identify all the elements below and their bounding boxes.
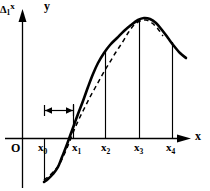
tick-label-x1-subscript: 1: [78, 147, 82, 156]
tick-label-x4-base: x: [166, 141, 172, 153]
tick-label-x0: x0: [38, 142, 47, 153]
tick-label-x3: x3: [134, 142, 143, 153]
x-axis-label: x: [195, 130, 201, 142]
tick-label-x3-base: x: [134, 141, 140, 153]
tick-label-x2-subscript: 2: [107, 147, 111, 156]
delta-dimension-bracket: [45, 105, 74, 116]
tick-label-x4: x4: [166, 142, 175, 153]
tick-label-x3-subscript: 3: [140, 147, 144, 156]
plot-canvas: [0, 0, 210, 191]
delta-variable: x: [10, 1, 15, 11]
tick-label-x2: x2: [101, 142, 110, 153]
tick-label-x4-subscript: 4: [172, 147, 176, 156]
ordinate-lines: [45, 19, 173, 183]
y-axis-label: y: [44, 0, 50, 12]
solid-function-curve: [44, 18, 186, 182]
tick-label-x0-subscript: 0: [44, 147, 48, 156]
y-axis-arrow-icon: [19, 9, 27, 22]
delta-arrow-left-icon: [45, 107, 52, 114]
tick-label-x1: x1: [72, 142, 81, 153]
x-axis-arrow-icon: [177, 135, 191, 143]
function-plot-figure: y x O x0 x1 x2 x3 x4 Δ1x: [0, 0, 210, 191]
tick-label-x2-base: x: [101, 141, 107, 153]
tick-label-x1-base: x: [72, 141, 78, 153]
tick-label-x0-base: x: [38, 141, 44, 153]
origin-label: O: [11, 142, 20, 154]
delta-arrow-right-icon: [66, 107, 73, 114]
